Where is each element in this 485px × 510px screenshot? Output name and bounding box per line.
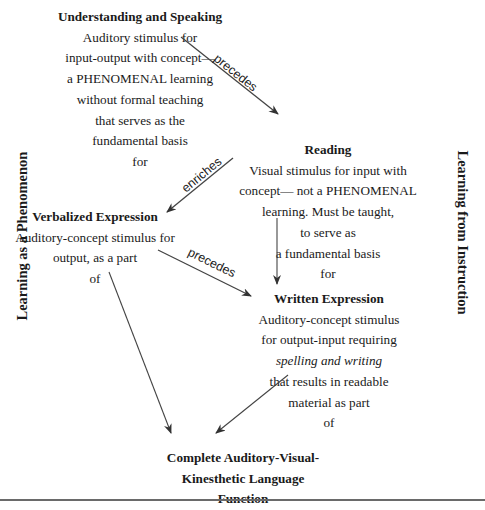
node-text-line: Visual stimulus for input with [228,161,428,182]
node-text-line: a PHENOMENAL learning [40,69,240,90]
node-reading: Reading Visual stimulus for input with c… [228,140,428,285]
arrow-icon [109,272,171,433]
node-text-line: that results in readable [244,372,414,393]
edge-verbalized-to-complete [109,272,171,433]
node-text-line: input-output with concept— [40,48,240,69]
node-text-line-italic: spelling and writing [244,351,414,372]
node-text-line: material as part [244,393,414,414]
node-title: Verbalized Expression [10,207,180,228]
node-understanding-and-speaking: Understanding and Speaking Auditory stim… [40,7,240,173]
node-text-line: a fundamental basis [228,244,428,265]
node-title-line: Complete Auditory-Visual- [148,448,338,469]
node-text-line: learning. Must be taught, [228,202,428,223]
node-verbalized-expression: Verbalized Expression Auditory-concept s… [10,207,180,290]
node-text-line: for [40,152,240,173]
node-text-line: fundamental basis [40,131,240,152]
node-title: Written Expression [244,289,414,310]
bottom-divider [0,499,485,501]
node-title: Reading [228,140,428,161]
node-text-line: for output-input requiring [244,330,414,351]
node-text-line: of [10,269,180,290]
node-text-line: to serve as [228,223,428,244]
side-label-learning-from-instruction: Learning from Instruction [454,151,471,311]
node-written-expression: Written Expression Auditory-concept stim… [244,289,414,434]
node-text-line: without formal teaching [40,90,240,111]
node-text-line: output, as a part [10,248,180,269]
node-text-line: that serves as the [40,111,240,132]
node-title-line: Kinesthetic Language [148,469,338,490]
node-text-line: Auditory-concept stimulus for [10,228,180,249]
node-title: Understanding and Speaking [40,7,240,28]
node-text-line: concept— not a PHENOMENAL [228,181,428,202]
node-text-line: of [244,413,414,434]
node-text-line: Auditory stimulus for [40,28,240,49]
node-text-line: for [228,264,428,285]
node-text-line: Auditory-concept stimulus [244,310,414,331]
